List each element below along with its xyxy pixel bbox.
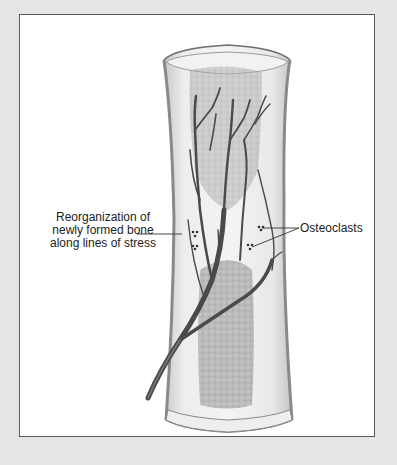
- label-line-3: along lines of stress: [38, 237, 168, 250]
- marrow-lower: [198, 260, 254, 409]
- label-osteoclasts: Osteoclasts: [300, 222, 363, 235]
- label-reorganization: Reorganization of newly formed bone alon…: [38, 211, 168, 250]
